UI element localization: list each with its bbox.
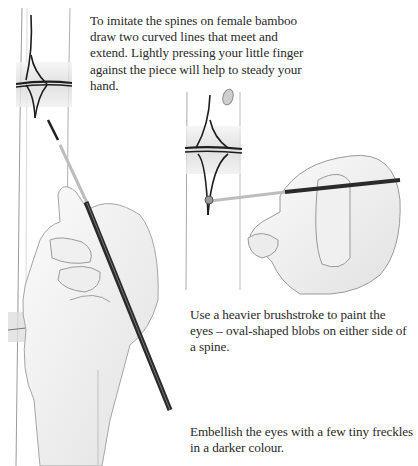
caption-line: eyes – oval-shaped blobs on either side … [190,323,418,339]
right-illustration [185,88,400,294]
caption-freckles: Embellish the eyes with a few tiny freck… [190,424,418,456]
caption-line: a spine. [190,339,418,355]
caption-line: extend. Lightly pressing your little fin… [90,45,410,61]
caption-line: Embellish the eyes with a few tiny freck… [190,424,418,440]
caption-line: hand. [90,78,410,94]
caption-line: in a darker colour. [190,440,418,456]
caption-eyes: Use a heavier brushstroke to paint the e… [190,307,418,356]
caption-line: draw two curved lines that meet and [90,29,410,45]
caption-line: Use a heavier brushstroke to paint the [190,307,418,323]
caption-line: To imitate the spines on female bamboo [90,13,410,29]
caption-line: against the piece will help to steady yo… [90,62,410,78]
caption-spines: To imitate the spines on female bamboo d… [90,13,410,94]
hand-right [248,155,400,294]
bamboo-stalk-right [185,92,242,290]
